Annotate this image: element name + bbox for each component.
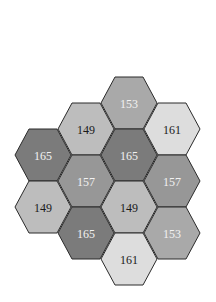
hex-value-label: 161	[120, 253, 138, 267]
hex-value-label: 157	[77, 175, 95, 189]
hex-value-label: 157	[163, 175, 181, 189]
hex-value-label: 153	[163, 227, 181, 241]
hex-value-label: 153	[120, 97, 138, 111]
hex-grid-diagram: 153149161165165157157149149165153161	[0, 0, 216, 302]
hex-value-label: 149	[77, 123, 95, 137]
hex-value-label: 165	[120, 149, 138, 163]
hex-value-label: 161	[163, 123, 181, 137]
hex-tiles: 153149161165165157157149149165153161	[15, 77, 200, 285]
hex-value-label: 165	[34, 149, 52, 163]
hex-value-label: 149	[120, 201, 138, 215]
hex-value-label: 149	[34, 201, 52, 215]
hex-value-label: 165	[77, 227, 95, 241]
